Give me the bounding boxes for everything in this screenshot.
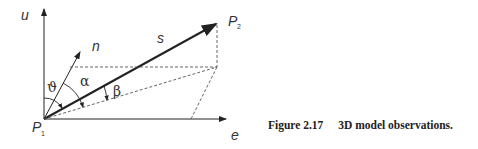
figure-caption: Figure 2.17 3D model observations. [268,119,453,131]
u-axis-label: u [21,7,29,23]
beta-arc [104,86,107,100]
caption-number: Figure 2.17 [268,119,323,131]
e-axis-label: e [231,127,239,143]
s-label: s [157,30,164,46]
theta-label: ϑ [47,79,57,95]
caption-text: 3D model observations. [338,119,453,131]
p1-subscript: 1 [41,130,45,137]
alpha-label: α [80,73,90,89]
p2-subscript: 2 [237,23,241,30]
beta-label: β [113,83,121,99]
n-label: n [92,38,100,54]
